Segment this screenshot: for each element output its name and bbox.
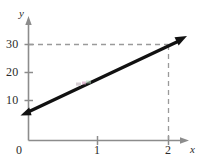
graph-figure: y x 30 20 10 0 1 2 <box>0 0 206 166</box>
x-tick-label-2: 2 <box>165 144 171 156</box>
y-tick-label-30: 30 <box>6 38 18 50</box>
x-axis-label: x <box>190 144 195 155</box>
data-line <box>21 36 188 116</box>
y-tick-label-20: 20 <box>6 66 18 78</box>
y-axis <box>25 16 31 141</box>
y-tick-label-10: 10 <box>6 94 18 106</box>
dashed-guides <box>29 45 169 140</box>
origin-label: 0 <box>16 144 22 156</box>
plot-canvas <box>0 0 206 166</box>
x-tick-label-1: 1 <box>94 144 100 156</box>
y-axis-label: y <box>19 8 24 19</box>
